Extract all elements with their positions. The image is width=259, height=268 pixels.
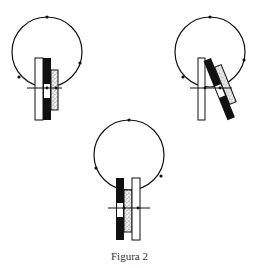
arrow-marker-icon bbox=[123, 207, 126, 210]
arrow-marker-icon bbox=[127, 118, 130, 121]
circuit-loop bbox=[94, 120, 164, 190]
black-bar-window bbox=[117, 203, 123, 217]
arrow-marker-icon bbox=[78, 61, 81, 64]
arrow-marker-icon bbox=[242, 58, 245, 61]
panel-top-left bbox=[12, 15, 82, 120]
panel-bottom bbox=[94, 118, 164, 240]
figure-diagram bbox=[0, 0, 259, 268]
white-bar bbox=[35, 58, 43, 120]
panel-top-right bbox=[175, 15, 246, 120]
arrow-marker-icon bbox=[159, 174, 162, 177]
arrow-marker-icon bbox=[181, 75, 184, 78]
arrow-marker-icon bbox=[219, 87, 222, 90]
arrow-marker-icon bbox=[94, 166, 97, 169]
arrow-marker-icon bbox=[204, 87, 207, 90]
arrow-marker-icon bbox=[17, 75, 20, 78]
black-bar-window bbox=[44, 84, 50, 98]
arrow-marker-icon bbox=[45, 15, 48, 18]
textured-bar bbox=[124, 190, 132, 232]
arrow-marker-icon bbox=[46, 87, 49, 90]
figure-caption: Figura 2 bbox=[0, 250, 259, 262]
arrow-marker-icon bbox=[208, 15, 211, 18]
white-bar bbox=[198, 58, 205, 120]
arrow-marker-icon bbox=[137, 207, 140, 210]
arrow-marker-icon bbox=[55, 87, 58, 90]
textured-bar bbox=[51, 70, 58, 110]
